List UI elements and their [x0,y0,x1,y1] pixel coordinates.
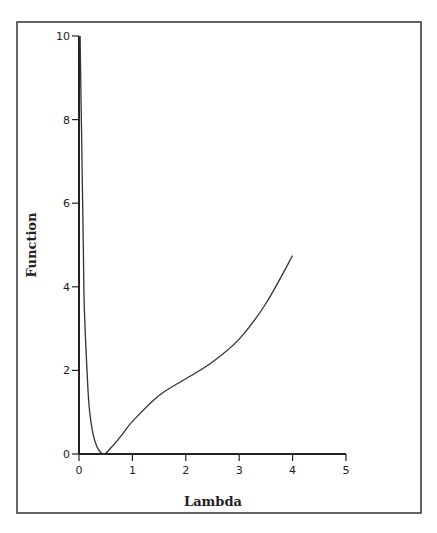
tick-marks: 0123450246810 [56,30,350,477]
y-axis-label: Function [24,212,39,277]
chart-frame [17,22,421,513]
y-tick-label: 8 [63,114,70,127]
x-tick-label: 3 [236,464,243,477]
x-tick-label: 0 [76,464,83,477]
y-tick-label: 10 [56,30,70,43]
chart-canvas: 0123450246810 Lambda Function [0,0,437,533]
x-tick-label: 1 [129,464,136,477]
y-tick-label: 2 [63,364,70,377]
x-tick-label: 5 [343,464,350,477]
y-tick-label: 0 [63,448,70,461]
x-axis-label: Lambda [184,494,242,509]
y-tick-label: 4 [63,281,70,294]
x-tick-label: 4 [289,464,296,477]
axes [79,36,346,454]
function-curve [80,36,293,454]
x-tick-label: 2 [182,464,189,477]
y-tick-label: 6 [63,197,70,210]
